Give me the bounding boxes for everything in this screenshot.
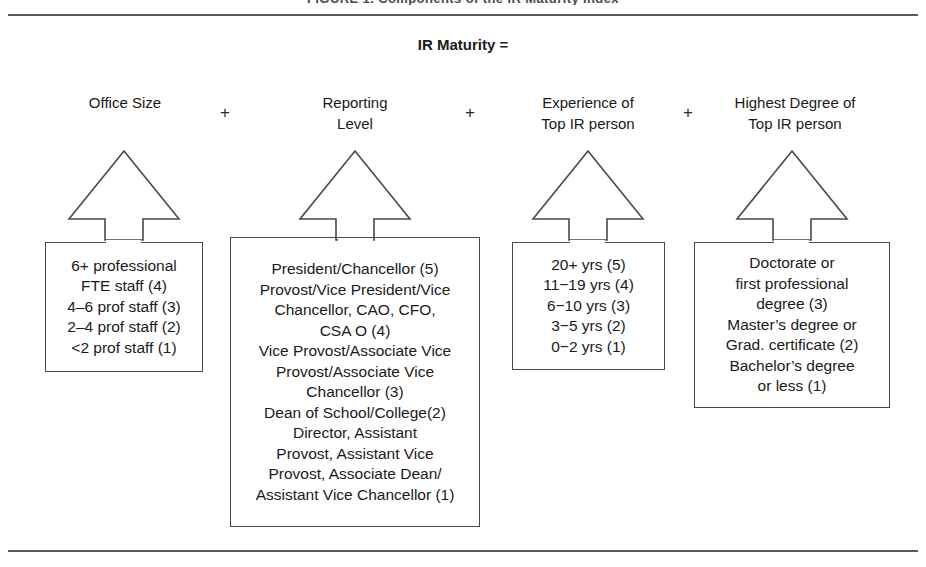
- plus-operator-3: +: [678, 104, 698, 121]
- column-header-office-size: Office Size: [45, 92, 205, 113]
- up-arrow-icon-experience: [530, 148, 646, 242]
- up-arrow-icon-highest-degree: [734, 148, 850, 242]
- criteria-text-office-size: 6+ professional FTE staff (4) 4–6 prof s…: [46, 256, 202, 359]
- figure-container: FIGURE 1. Components of the IR Maturity …: [0, 0, 926, 567]
- criteria-box-office-size: 6+ professional FTE staff (4) 4–6 prof s…: [45, 242, 203, 372]
- plus-operator-2: +: [460, 104, 480, 121]
- column-header-experience: Experience of Top IR person: [508, 92, 668, 134]
- shaft-gap-mask-office-size: [106, 240, 141, 244]
- criteria-text-highest-degree: Doctorate or first professional degree (…: [695, 253, 889, 397]
- shaft-gap-mask-highest-degree: [774, 240, 809, 244]
- figure-caption-sliver: FIGURE 1. Components of the IR Maturity …: [0, 0, 926, 5]
- top-horizontal-rule: [8, 14, 918, 16]
- column-header-highest-degree: Highest Degree of Top IR person: [700, 92, 890, 134]
- shaft-gap-mask-experience: [570, 240, 605, 244]
- figure-title: IR Maturity =: [0, 36, 926, 53]
- criteria-box-experience: 20+ yrs (5) 11−19 yrs (4) 6−10 yrs (3) 3…: [512, 242, 665, 370]
- criteria-box-reporting-level: President/Chancellor (5) Provost/Vice Pr…: [230, 237, 480, 527]
- criteria-text-reporting-level: President/Chancellor (5) Provost/Vice Pr…: [231, 259, 479, 505]
- up-arrow-icon-reporting-level: [297, 148, 413, 242]
- bottom-horizontal-rule: [8, 550, 918, 552]
- criteria-box-highest-degree: Doctorate or first professional degree (…: [694, 242, 890, 408]
- up-arrow-icon-office-size: [66, 148, 182, 242]
- column-header-reporting-level: Reporting Level: [275, 92, 435, 134]
- plus-operator-1: +: [215, 104, 235, 121]
- criteria-text-experience: 20+ yrs (5) 11−19 yrs (4) 6−10 yrs (3) 3…: [513, 255, 664, 358]
